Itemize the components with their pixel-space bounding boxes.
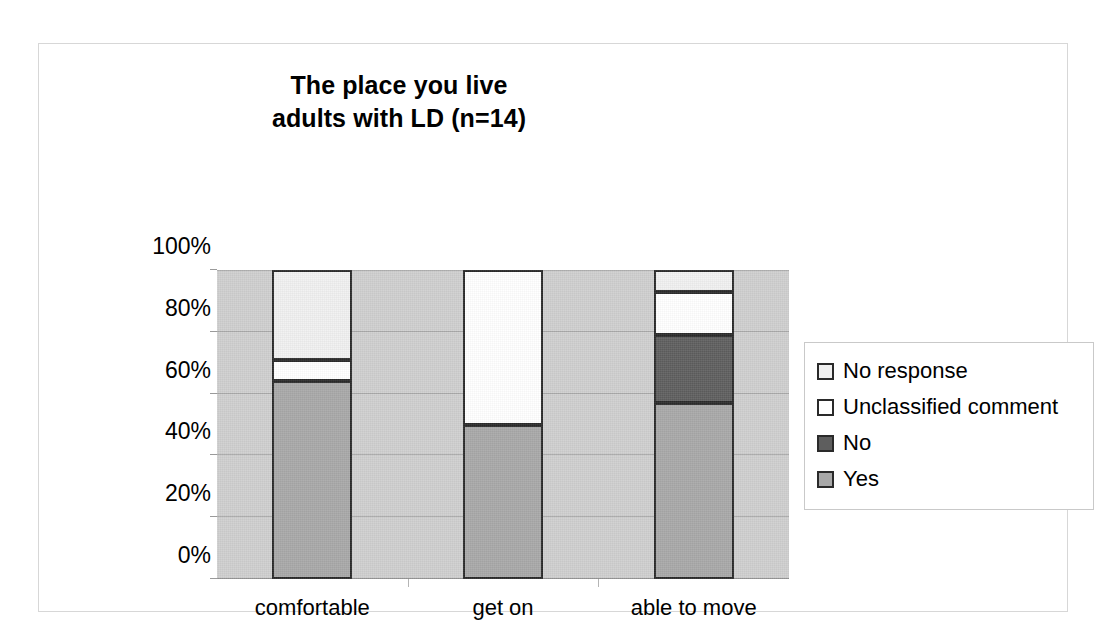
x-axis-tick-label: get on (472, 595, 533, 621)
legend-item[interactable]: No (817, 425, 1081, 461)
legend-item[interactable]: No response (817, 353, 1081, 389)
bar-segment[interactable] (654, 270, 734, 292)
legend-item-label: Yes (843, 468, 879, 490)
y-axis: 0%20%40%60%80%100% (103, 270, 211, 579)
legend-item-label: Unclassified comment (843, 396, 1058, 418)
x-axis-tick-mark (598, 579, 599, 587)
y-axis-tick-label: 60% (115, 359, 211, 382)
bar-segment[interactable] (463, 270, 543, 425)
plot-area (217, 270, 789, 579)
y-axis-tick-mark (210, 269, 217, 270)
x-axis-tick-label: comfortable (255, 595, 370, 621)
bar-segment[interactable] (272, 360, 352, 382)
y-axis-tick-label: 40% (115, 420, 211, 443)
legend-item[interactable]: Yes (817, 461, 1081, 497)
bar-segment[interactable] (272, 381, 352, 579)
y-axis-tick-label: 20% (115, 482, 211, 505)
bar-get-on[interactable] (463, 270, 543, 579)
y-axis-tick-mark (210, 516, 217, 517)
y-axis-tick-mark (210, 578, 217, 579)
chart-title-line-1: The place you live (39, 69, 759, 102)
bar-segment[interactable] (654, 292, 734, 335)
y-axis-tick-mark (210, 393, 217, 394)
chart-figure-frame: The place you live adults with LD (n=14)… (38, 43, 1068, 612)
legend-swatch-icon (817, 399, 834, 416)
y-axis-tick-label: 100% (115, 235, 211, 258)
bar-segment[interactable] (463, 425, 543, 580)
legend-swatch-icon (817, 363, 834, 380)
legend-item-label: No response (843, 360, 968, 382)
y-axis-tick-label: 0% (115, 544, 211, 567)
x-axis-tick-mark (408, 579, 409, 587)
x-axis: comfortableget onable to move (217, 587, 789, 627)
y-axis-tick-mark (210, 331, 217, 332)
legend-swatch-icon (817, 435, 834, 452)
legend-item[interactable]: Unclassified comment (817, 389, 1081, 425)
bar-comfortable[interactable] (272, 270, 352, 579)
bar-segment[interactable] (654, 403, 734, 579)
y-axis-tick-label: 80% (115, 297, 211, 320)
legend-swatch-icon (817, 471, 834, 488)
legend-item-label: No (843, 432, 871, 454)
x-axis-tick-label: able to move (631, 595, 757, 621)
chart-title-line-2: adults with LD (n=14) (39, 102, 759, 135)
chart-title: The place you live adults with LD (n=14) (39, 69, 759, 135)
bar-segment[interactable] (654, 335, 734, 403)
y-axis-tick-mark (210, 454, 217, 455)
bar-able-to-move[interactable] (654, 270, 734, 579)
chart-legend: No responseUnclassified commentNoYes (804, 342, 1094, 510)
bar-segment[interactable] (272, 270, 352, 360)
